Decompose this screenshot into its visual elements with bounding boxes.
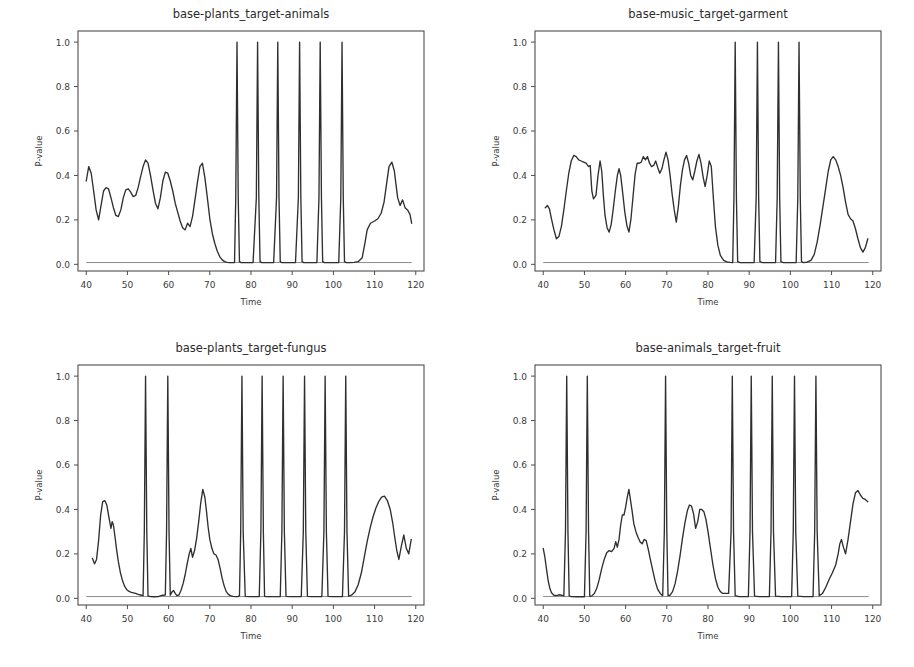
x-tick-label: 70: [661, 280, 673, 290]
x-tick-label: 120: [407, 280, 424, 290]
subplot-1: base-music_target-garment405060708090100…: [457, 0, 914, 333]
y-tick-label: 0.6: [56, 460, 71, 470]
y-tick-label: 0.2: [513, 549, 527, 559]
y-tick-label: 0.2: [56, 215, 70, 225]
axes-frame: [535, 31, 881, 271]
y-tick-label: 0.0: [56, 260, 71, 270]
data-layer: [86, 42, 411, 262]
x-tick-label: 100: [325, 280, 342, 290]
x-tick-label: 100: [325, 614, 342, 624]
x-tick-label: 90: [743, 280, 755, 290]
figure-canvas: base-plants_target-animals40506070809010…: [0, 0, 914, 667]
y-tick-label: 0.8: [513, 82, 528, 92]
x-tick-label: 110: [823, 614, 840, 624]
data-layer: [543, 42, 868, 262]
y-tick-label: 0.0: [513, 260, 528, 270]
y-axis-label: P-value: [491, 136, 501, 167]
x-tick-label: 120: [407, 614, 424, 624]
y-tick-label: 0.2: [513, 215, 527, 225]
x-tick-label: 60: [163, 280, 175, 290]
y-tick-label: 0.0: [56, 594, 71, 604]
subplot-title: base-plants_target-fungus: [176, 341, 327, 355]
x-tick-label: 40: [81, 280, 93, 290]
axes-frame: [78, 31, 424, 271]
y-tick-label: 0.6: [513, 126, 528, 136]
subplot-3: base-animals_target-fruit405060708090100…: [457, 334, 914, 667]
x-tick-label: 50: [579, 280, 591, 290]
x-tick-label: 50: [579, 614, 591, 624]
x-tick-label: 110: [823, 280, 840, 290]
y-tick-label: 0.8: [56, 416, 71, 426]
plot-svg: base-animals_target-fruit405060708090100…: [457, 334, 914, 667]
y-axis-label: P-value: [491, 470, 501, 501]
x-tick-label: 80: [245, 614, 257, 624]
x-tick-label: 80: [702, 280, 714, 290]
y-tick-label: 0.2: [56, 549, 70, 559]
x-tick-label: 80: [702, 614, 714, 624]
plot-svg: base-plants_target-animals40506070809010…: [0, 0, 457, 333]
pvalue-line: [92, 376, 411, 597]
x-axis-label: Time: [697, 631, 719, 641]
x-axis-label: Time: [240, 631, 262, 641]
x-tick-label: 70: [661, 614, 673, 624]
data-layer: [543, 376, 868, 597]
y-tick-label: 0.4: [56, 505, 71, 515]
pvalue-line: [86, 42, 411, 262]
x-tick-label: 50: [122, 280, 134, 290]
x-tick-label: 100: [782, 280, 799, 290]
y-tick-label: 0.4: [513, 505, 528, 515]
y-tick-label: 0.8: [56, 82, 71, 92]
subplot-2: base-plants_target-fungus405060708090100…: [0, 334, 457, 667]
x-tick-label: 60: [163, 614, 175, 624]
y-tick-label: 0.0: [513, 594, 528, 604]
x-axis-label: Time: [240, 297, 262, 307]
x-tick-label: 70: [204, 614, 216, 624]
y-tick-label: 1.0: [513, 38, 528, 48]
subplot-title: base-plants_target-animals: [173, 7, 330, 21]
y-tick-label: 0.4: [513, 171, 528, 181]
x-tick-label: 90: [743, 614, 755, 624]
pvalue-line: [543, 376, 868, 597]
x-tick-label: 40: [538, 280, 550, 290]
x-tick-label: 70: [204, 280, 216, 290]
subplot-title: base-music_target-garment: [628, 7, 788, 21]
subplot-0: base-plants_target-animals40506070809010…: [0, 0, 457, 333]
x-tick-label: 60: [620, 280, 632, 290]
x-tick-label: 120: [864, 614, 881, 624]
y-tick-label: 1.0: [56, 372, 71, 382]
y-tick-label: 1.0: [56, 38, 71, 48]
y-axis-label: P-value: [34, 136, 44, 167]
plot-svg: base-music_target-garment405060708090100…: [457, 0, 914, 333]
pvalue-line: [545, 42, 868, 262]
x-tick-label: 90: [286, 280, 298, 290]
x-axis-label: Time: [697, 297, 719, 307]
plot-svg: base-plants_target-fungus405060708090100…: [0, 334, 457, 667]
x-tick-label: 40: [81, 614, 93, 624]
y-tick-label: 1.0: [513, 372, 528, 382]
x-tick-label: 40: [538, 614, 550, 624]
y-tick-label: 0.4: [56, 171, 71, 181]
y-tick-label: 0.6: [513, 460, 528, 470]
y-tick-label: 0.8: [513, 416, 528, 426]
x-tick-label: 60: [620, 614, 632, 624]
x-tick-label: 90: [286, 614, 298, 624]
subplot-title: base-animals_target-fruit: [635, 341, 781, 355]
x-tick-label: 80: [245, 280, 257, 290]
x-tick-label: 50: [122, 614, 134, 624]
x-tick-label: 110: [366, 614, 383, 624]
y-axis-label: P-value: [34, 470, 44, 501]
x-tick-label: 100: [782, 614, 799, 624]
y-tick-label: 0.6: [56, 126, 71, 136]
data-layer: [86, 376, 411, 597]
x-tick-label: 110: [366, 280, 383, 290]
axes-frame: [78, 365, 424, 605]
x-tick-label: 120: [864, 280, 881, 290]
